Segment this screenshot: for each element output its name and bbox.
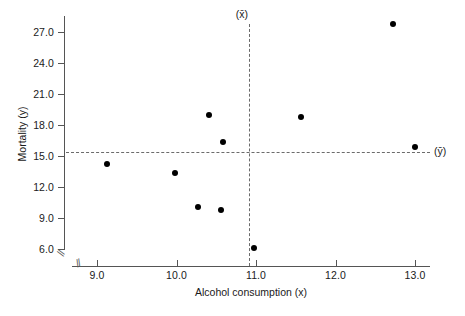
data-point [206,112,212,118]
data-point [104,161,110,167]
y-tick-label: 27.0 [18,27,54,37]
scatter-plot: 6.09.012.015.018.021.024.027.0 9.010.011… [0,0,465,316]
y-tick-mark [58,63,64,64]
x-mean-reference-line [249,24,250,266]
y-tick-mark [58,94,64,95]
data-point [218,207,224,213]
y-axis-break-icon: // [55,250,67,258]
y-tick-label: 9.0 [18,213,54,223]
x-axis-line [72,266,430,267]
x-tick-label: 9.0 [76,270,118,280]
y-tick-label: 24.0 [18,58,54,68]
y-tick-mark [58,32,64,33]
y-tick-mark [58,125,64,126]
x-tick-mark [336,260,337,266]
y-tick-mark [58,218,64,219]
x-axis-break-icon: // [74,258,82,270]
x-tick-mark [177,260,178,266]
y-tick-mark [58,187,64,188]
y-axis-line [64,16,65,250]
x-tick-mark [256,260,257,266]
x-tick-mark [97,260,98,266]
data-point [390,21,396,27]
x-tick-label: 10.0 [156,270,198,280]
x-tick-label: 13.0 [394,270,436,280]
x-tick-label: 11.0 [235,270,277,280]
data-point [195,204,201,210]
y-tick-mark [58,156,64,157]
y-axis-title: Mortality (y) [16,74,28,194]
x-tick-label: 12.0 [315,270,357,280]
data-point [412,144,418,150]
y-mean-reference-line [66,152,430,153]
x-axis-title: Alcohol consumption (x) [72,286,430,298]
y-tick-label: 6.0 [18,244,54,254]
x-tick-mark [415,260,416,266]
data-point [220,139,226,145]
y-mean-label: (ȳ) [434,145,446,157]
data-point [298,114,304,120]
data-point [251,245,257,251]
data-point [172,170,178,176]
x-mean-label: (x̄) [236,8,248,20]
